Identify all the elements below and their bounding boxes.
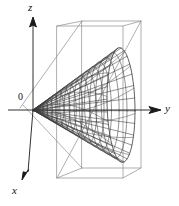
x-axis-arrowhead <box>22 170 29 181</box>
x-axis-line <box>28 110 33 172</box>
box-diagonal-upper-left <box>20 21 82 108</box>
box-depth-edge-bottom-left <box>57 168 82 178</box>
z-axis-label: z <box>28 2 32 13</box>
coordinate-surface-figure <box>0 0 179 206</box>
box-depth-edge-top-right <box>123 21 141 26</box>
y-axis-label: y <box>165 103 170 114</box>
x-axis-label: x <box>12 185 17 196</box>
origin-label: 0 <box>18 92 23 102</box>
cone-generator-line <box>33 65 110 110</box>
box-depth-edge-bottom-right <box>123 168 141 178</box>
cone-helix-line <box>33 110 133 138</box>
box-depth-edge-top-left <box>57 21 82 26</box>
cone-generator-line <box>33 75 108 110</box>
figure-container: z y x 0 <box>0 0 179 206</box>
surface-mesh <box>33 48 135 163</box>
z-axis-arrowhead <box>30 17 37 27</box>
